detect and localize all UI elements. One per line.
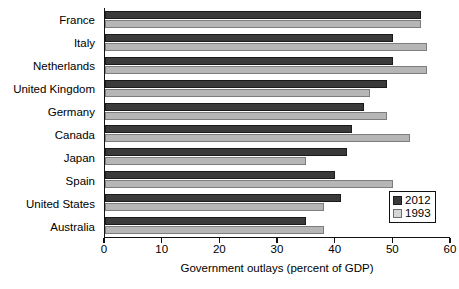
x-axis-tick-labels: 0102030405060 [104,243,450,259]
light-swatch-icon [393,209,402,218]
bar-canada-2012 [105,125,352,133]
bar-united-kingdom-2012 [105,80,387,88]
legend-item-1993: 1993 [393,207,431,220]
bar-japan-2012 [105,148,347,156]
x-tick-label-30: 30 [271,243,284,255]
bar-group-netherlands [105,54,450,77]
bar-group-germany [105,100,450,123]
bar-group-france [105,8,450,31]
bar-group-canada [105,122,450,145]
x-tick-label-0: 0 [101,243,107,255]
bar-japan-1993 [105,157,306,165]
y-axis-label-spain: Spain [0,169,100,192]
legend-label-2012: 2012 [405,195,431,206]
y-axis-label-australia: Australia [0,215,100,238]
bar-australia-2012 [105,217,306,225]
legend-item-2012: 2012 [393,194,431,207]
dark-swatch-icon [393,196,402,205]
y-axis-label-germany: Germany [0,100,100,123]
y-axis-label-united-kingdom: United Kingdom [0,77,100,100]
y-axis-label-united-states: United States [0,192,100,215]
bar-germany-1993 [105,112,387,120]
bar-germany-2012 [105,103,364,111]
bar-group-spain [105,168,450,191]
bar-spain-2012 [105,171,335,179]
y-axis-label-japan: Japan [0,146,100,169]
bar-france-1993 [105,20,421,28]
y-axis-label-france: France [0,8,100,31]
bar-australia-1993 [105,226,324,234]
bar-group-japan [105,145,450,168]
bar-italy-1993 [105,43,427,51]
bar-netherlands-1993 [105,66,427,74]
x-tick-label-50: 50 [386,243,399,255]
y-axis-label-canada: Canada [0,123,100,146]
bar-group-italy [105,31,450,54]
chart-legend: 2012 1993 [389,191,436,223]
x-axis-title: Government outlays (percent of GDP) [104,262,450,274]
x-tick-label-40: 40 [328,243,341,255]
bar-spain-1993 [105,180,393,188]
bar-united-kingdom-1993 [105,89,370,97]
x-tick-label-60: 60 [444,243,457,255]
x-tick-label-20: 20 [213,243,226,255]
legend-label-1993: 1993 [405,208,431,219]
bar-united-states-1993 [105,203,324,211]
bar-italy-2012 [105,34,393,42]
y-axis-category-labels: France Italy Netherlands United Kingdom … [0,8,100,238]
bar-canada-1993 [105,134,410,142]
y-axis-label-italy: Italy [0,31,100,54]
x-tick-label-10: 10 [155,243,168,255]
bar-group-united-kingdom [105,77,450,100]
bar-france-2012 [105,11,421,19]
y-axis-label-netherlands: Netherlands [0,54,100,77]
bar-united-states-2012 [105,194,341,202]
bar-chart: France Italy Netherlands United Kingdom … [0,0,459,289]
bar-netherlands-2012 [105,57,393,65]
